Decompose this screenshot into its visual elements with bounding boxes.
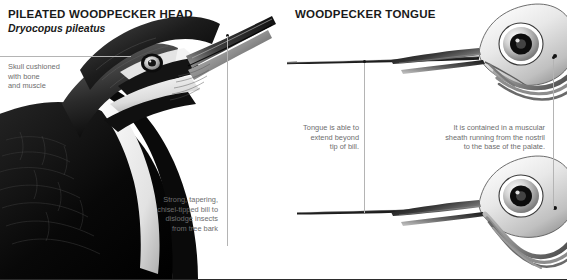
skull-caption: Skull cushioned with bone and muscle — [8, 62, 128, 91]
bill-caption: Strong, tapering, chisel-tipped bill to … — [120, 195, 218, 233]
skull-caption-leader-line — [0, 56, 131, 57]
bill-caption-leader-line — [227, 36, 228, 246]
right-panel-title: WOODPECKER TONGUE — [295, 8, 436, 20]
panel-woodpecker-tongue: WOODPECKER TONGUE Tongue is able to exte… — [283, 0, 567, 280]
panel-pileated-woodpecker-head: PILEATED WOODPECKER HEAD Dryocopus pilea… — [0, 0, 283, 280]
tongue-extend-caption: Tongue is able to extend beyond tip of b… — [275, 123, 359, 152]
pileated-woodpecker-head-photo — [0, 0, 283, 280]
tongue-sheath-leader-line — [553, 59, 554, 209]
left-panel-subtitle: Dryocopus pileatus — [8, 22, 105, 34]
tongue-extend-leader-line — [364, 63, 365, 213]
woodpecker-anatomy-figure: PILEATED WOODPECKER HEAD Dryocopus pilea… — [0, 0, 567, 280]
left-panel-title: PILEATED WOODPECKER HEAD — [8, 8, 193, 20]
tongue-sheath-caption: It is contained in a muscular sheath run… — [405, 123, 545, 152]
